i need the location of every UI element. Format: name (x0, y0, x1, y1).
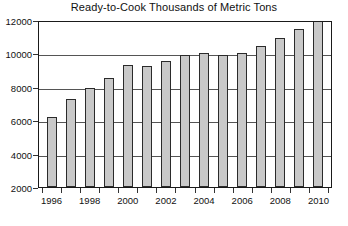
chart-title: Ready-to-Cook Thousands of Metric Tons (0, 1, 348, 13)
bar[interactable] (294, 29, 304, 187)
x-axis-tick-mark (175, 188, 176, 193)
y-axis-labels: 20004000600080001000012000 (0, 0, 36, 226)
x-axis-tick-label: 2002 (155, 195, 176, 206)
bar-slot (81, 22, 100, 187)
bar[interactable] (256, 46, 266, 187)
bar[interactable] (180, 55, 190, 187)
bar[interactable] (218, 55, 228, 187)
x-axis-tick-label: 2010 (308, 195, 329, 206)
bar[interactable] (199, 53, 209, 187)
x-axis-tick-mark (328, 188, 329, 193)
x-axis-tick-mark (118, 188, 119, 193)
x-axis-labels: 19961998200020022004200620082010 (38, 195, 332, 215)
bar-slot (176, 22, 195, 187)
x-axis-tick-label: 2000 (117, 195, 138, 206)
bar-series (39, 22, 331, 187)
x-axis-tick-mark (61, 188, 62, 193)
bar-slot (251, 22, 270, 187)
x-axis-tick-mark (214, 188, 215, 193)
bar[interactable] (85, 88, 95, 187)
bar-slot (308, 22, 327, 187)
x-axis-tick-mark (99, 188, 100, 193)
bar-slot (157, 22, 176, 187)
x-axis-ticks (38, 188, 332, 194)
y-axis-tick-label: 4000 (11, 149, 32, 160)
bar-chart: Ready-to-Cook Thousands of Metric Tons 2… (0, 0, 348, 226)
y-axis-tick-label: 10000 (6, 49, 32, 60)
x-axis-tick-label: 2006 (232, 195, 253, 206)
bar[interactable] (123, 65, 133, 187)
bar-slot (289, 22, 308, 187)
bar[interactable] (66, 99, 76, 187)
bar[interactable] (237, 53, 247, 187)
x-axis-tick-mark (80, 188, 81, 193)
bar[interactable] (142, 66, 152, 187)
bar-slot (270, 22, 289, 187)
x-axis-tick-mark (252, 188, 253, 193)
bar-slot (62, 22, 81, 187)
x-axis-tick-mark (42, 188, 43, 193)
x-axis-tick-mark (233, 188, 234, 193)
bar-slot (138, 22, 157, 187)
y-axis-tick-label: 12000 (6, 16, 32, 27)
bar[interactable] (275, 38, 285, 187)
x-axis-tick-mark (195, 188, 196, 193)
x-axis-tick-mark (137, 188, 138, 193)
bar[interactable] (161, 61, 171, 187)
x-axis-tick-mark (156, 188, 157, 193)
bar[interactable] (47, 117, 57, 187)
x-axis-tick-label: 1996 (41, 195, 62, 206)
x-axis-tick-label: 2004 (193, 195, 214, 206)
bar[interactable] (313, 22, 323, 187)
bar[interactable] (104, 78, 114, 187)
x-axis-tick-label: 1998 (79, 195, 100, 206)
x-axis-tick-mark (309, 188, 310, 193)
bar-slot (43, 22, 62, 187)
y-axis-tick-label: 2000 (11, 183, 32, 194)
x-axis-tick-mark (271, 188, 272, 193)
bar-slot (213, 22, 232, 187)
y-axis-tick-label: 8000 (11, 82, 32, 93)
bar-slot (119, 22, 138, 187)
bar-slot (232, 22, 251, 187)
y-axis-tick-label: 6000 (11, 116, 32, 127)
plot-area (38, 21, 332, 188)
plot-inner (39, 22, 331, 187)
x-axis-tick-mark (290, 188, 291, 193)
bar-slot (195, 22, 214, 187)
bar-slot (100, 22, 119, 187)
x-axis-tick-label: 2008 (270, 195, 291, 206)
